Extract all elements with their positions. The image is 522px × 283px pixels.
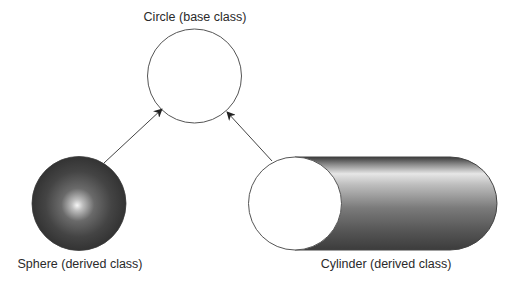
sphere-shape [32,157,126,251]
circle-base-label: Circle (base class) [144,11,247,24]
cylinder-face [249,157,342,250]
arrow-sphere-to-circle [104,109,162,163]
arrow-cylinder-to-circle [227,112,272,161]
sphere-derived-label: Sphere (derived class) [17,258,142,271]
inheritance-diagram [0,0,522,283]
cylinder-shape [249,157,497,250]
cylinder-derived-label: Cylinder (derived class) [321,258,452,271]
